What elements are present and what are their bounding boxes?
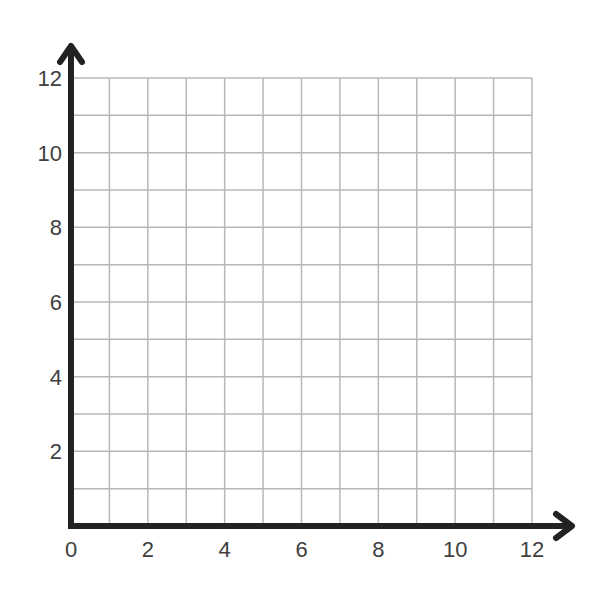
y-tick-labels: 24681012 (38, 66, 62, 464)
y-tick-label: 6 (50, 290, 62, 315)
y-tick-label: 4 (50, 365, 62, 390)
x-tick-label: 12 (520, 537, 544, 562)
x-tick-label: 6 (295, 537, 307, 562)
axes (60, 46, 572, 538)
x-tick-label: 8 (372, 537, 384, 562)
x-tick-label: 0 (65, 537, 77, 562)
x-tick-label: 4 (219, 537, 231, 562)
x-tick-label: 10 (443, 537, 467, 562)
y-tick-label: 12 (38, 66, 62, 91)
grid-lines (71, 78, 532, 526)
x-tick-labels: 024681012 (65, 537, 544, 562)
y-tick-label: 2 (50, 439, 62, 464)
y-tick-label: 10 (38, 141, 62, 166)
y-tick-label: 8 (50, 215, 62, 240)
x-tick-label: 2 (142, 537, 154, 562)
coordinate-grid-chart: 024681012 24681012 (0, 0, 608, 597)
